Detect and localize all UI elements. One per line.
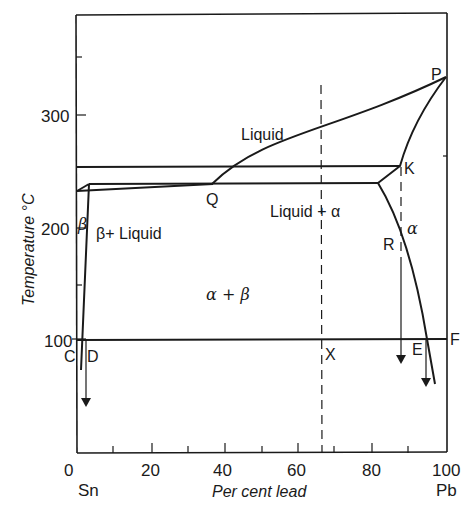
liquidus-q-p-line xyxy=(212,166,321,184)
liquidus-q-p-curve xyxy=(212,145,322,184)
point-label-c: C xyxy=(64,348,76,365)
point-label-e: E xyxy=(412,341,423,358)
point-label-q: Q xyxy=(206,191,218,208)
point-label-r: R xyxy=(383,236,395,253)
isotherm-100 xyxy=(77,339,447,340)
x-end-label-sn: Sn xyxy=(78,481,99,500)
liquidus-sn-side xyxy=(77,184,213,191)
isotherm-k xyxy=(77,166,400,167)
region-alpha-beta: α + β xyxy=(206,285,250,304)
y-tick-300: 300 xyxy=(41,107,69,126)
point-label-x: X xyxy=(325,346,336,363)
region-liquid: Liquid xyxy=(241,126,284,143)
point-label-d: D xyxy=(87,348,99,365)
x-end-label-pb: Pb xyxy=(436,481,457,500)
arrow-head-k xyxy=(396,355,406,364)
x-tick-40: 40 xyxy=(213,461,232,480)
composition-line-x xyxy=(321,85,322,453)
point-label-k: K xyxy=(404,160,415,177)
point-label-p: P xyxy=(431,66,442,83)
solvus-beta xyxy=(81,184,89,370)
liquidus-visible xyxy=(213,152,321,184)
y-axis-title: Temperature °C xyxy=(20,193,37,306)
x-tick-60: 60 xyxy=(287,461,306,480)
x-tick-80: 80 xyxy=(362,461,381,480)
eutectic-line xyxy=(89,183,378,184)
arrow-head-e xyxy=(421,378,431,387)
y-axis-ticks xyxy=(72,57,447,339)
x-tick-0: 0 xyxy=(64,461,73,480)
phase-diagram: 300 200 100 0 20 40 60 80 100 Sn Pb Per … xyxy=(0,0,464,510)
region-beta-liquid: β+ Liquid xyxy=(96,225,162,242)
region-beta: β xyxy=(77,215,87,234)
point-label-f: F xyxy=(450,331,460,348)
x-tick-20: 20 xyxy=(141,461,160,480)
liquidus-curve xyxy=(212,165,321,184)
arrow-head-d xyxy=(81,398,91,407)
region-liquid-alpha: Liquid + α xyxy=(270,203,340,220)
x-tick-100: 100 xyxy=(432,461,460,480)
x-axis-title: Per cent lead xyxy=(212,483,307,500)
y-tick-200: 200 xyxy=(41,220,69,239)
region-alpha: α xyxy=(407,219,418,238)
